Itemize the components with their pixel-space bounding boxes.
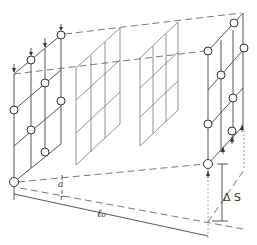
diagram-drawing [0,0,257,245]
l0-dimension-line [14,194,208,236]
mesh-plane-2 [140,22,178,146]
mesh-plane-1 [76,28,120,165]
diagram: a r ℓ₀ Δ S [0,0,257,245]
label-l0: ℓ₀ [97,208,106,219]
left-load-arrows [12,24,63,73]
right-node-circles [204,19,249,169]
top-back-dashed-line [65,13,241,34]
bottom-dashed-line [18,164,205,182]
label-r: r [60,194,64,202]
r-dashed-line [20,188,243,229]
right-node-frame [208,13,243,164]
left-node-frame [14,35,61,182]
top-front-dashed-line [14,51,205,74]
right-support-arrows [206,124,244,178]
label-delta-s: Δ S [223,192,241,203]
label-a: a [58,180,63,189]
